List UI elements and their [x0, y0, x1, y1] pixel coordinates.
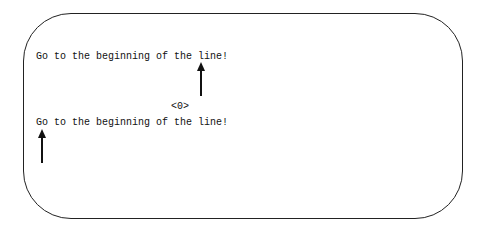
line-2-text: Go to the beginning of the line!	[36, 117, 228, 129]
screen-frame	[23, 13, 463, 219]
up-arrow-icon	[37, 129, 47, 165]
up-arrow-icon	[196, 62, 206, 98]
zero-marker: <0>	[171, 101, 189, 113]
